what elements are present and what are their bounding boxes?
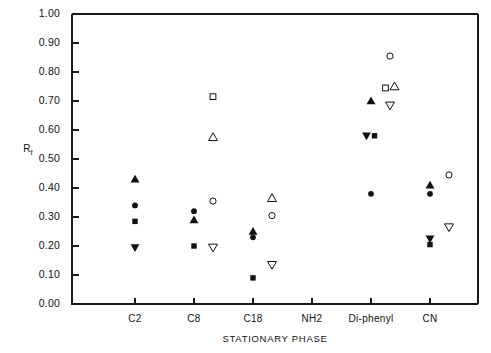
data-point-open-circle	[269, 212, 275, 218]
data-point-open-triangle-down	[445, 224, 454, 232]
y-tick-label: 0.60	[39, 123, 60, 135]
data-point-filled-circle	[191, 208, 197, 214]
x-axis-title: STATIONARY PHASE	[223, 333, 328, 344]
x-tick-label-di-phenyl: Di-phenyl	[349, 313, 394, 324]
data-point-filled-circle	[368, 191, 374, 197]
axis-labels: STATIONARY PHASERf	[23, 143, 327, 344]
data-point-filled-triangle-down	[131, 244, 140, 252]
data-point-filled-triangle-up	[131, 175, 140, 183]
data-point-filled-triangle-up	[367, 97, 376, 105]
y-tick-label: 0.80	[39, 65, 60, 77]
x-tick-label-nh2: NH2	[302, 313, 323, 324]
y-tick-label: 0.40	[39, 181, 60, 193]
y-tick-label: 0.50	[39, 152, 60, 164]
y-tick-label: 0.70	[39, 94, 60, 106]
data-point-open-triangle-up	[268, 194, 277, 202]
data-point-open-triangle-down	[268, 262, 277, 270]
data-point-filled-square	[191, 243, 196, 248]
y-axis-title: Rf	[23, 143, 33, 157]
y-tick-label: 0.90	[39, 36, 60, 48]
data-markers	[131, 53, 454, 281]
data-point-open-circle	[210, 198, 216, 204]
x-tick-label-cn: CN	[422, 313, 437, 324]
data-point-filled-circle	[250, 234, 256, 240]
data-point-filled-triangle-up	[426, 181, 435, 189]
x-tick-label-c8: C8	[187, 313, 201, 324]
data-point-filled-circle	[132, 203, 138, 209]
plot-frame	[72, 14, 478, 304]
data-point-open-circle	[446, 172, 452, 178]
data-point-open-triangle-down	[386, 102, 395, 110]
data-point-open-triangle-up	[209, 133, 218, 141]
data-point-open-triangle-up	[390, 82, 399, 90]
data-point-filled-triangle-down	[426, 235, 435, 243]
y-tick-label: 1.00	[39, 7, 60, 19]
data-point-filled-square	[372, 133, 377, 138]
data-point-filled-circle	[427, 191, 433, 197]
data-point-open-circle	[387, 53, 393, 59]
data-point-filled-triangle-up	[190, 215, 199, 223]
y-tick-label: 0.10	[39, 268, 60, 280]
chart-canvas: 0.000.100.200.300.400.500.600.700.800.90…	[0, 0, 491, 353]
axis-frame	[72, 14, 478, 304]
data-point-filled-square	[132, 219, 137, 224]
data-point-filled-square	[250, 275, 255, 280]
data-point-open-square	[210, 94, 216, 100]
y-tick-label: 0.20	[39, 239, 60, 251]
y-tick-label: 0.30	[39, 210, 60, 222]
data-point-open-triangle-down	[209, 244, 218, 252]
x-axis-ticks: C2C8C18NH2Di-phenylCN	[128, 298, 437, 324]
y-tick-label: 0.00	[39, 297, 60, 309]
x-tick-label-c18: C18	[243, 313, 262, 324]
data-point-filled-triangle-up	[249, 227, 258, 235]
x-tick-label-c2: C2	[128, 313, 142, 324]
scatter-chart: 0.000.100.200.300.400.500.600.700.800.90…	[0, 0, 491, 353]
data-point-open-square	[383, 85, 389, 91]
data-point-filled-triangle-down	[362, 133, 371, 141]
y-axis-ticks: 0.000.100.200.300.400.500.600.700.800.90…	[39, 7, 79, 309]
